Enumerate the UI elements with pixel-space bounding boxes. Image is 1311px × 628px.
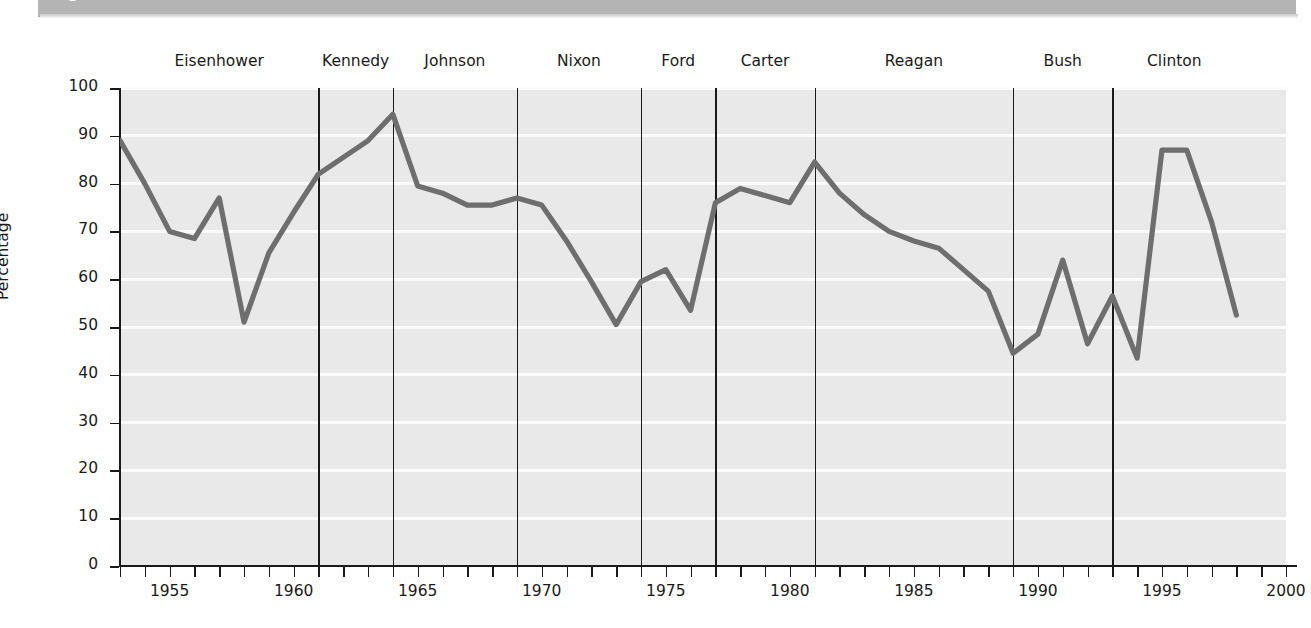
x-tick-1994 xyxy=(1137,566,1138,577)
y-tick-10 xyxy=(110,518,119,520)
x-tick-1965 xyxy=(418,566,419,577)
x-tick-label-1980: 1980 xyxy=(770,582,809,600)
president-label-eisenhower: Eisenhower xyxy=(175,52,264,70)
x-tick-1954 xyxy=(145,566,146,577)
y-tick-label-30: 30 xyxy=(58,414,98,430)
x-tick-label-2000: 2000 xyxy=(1266,582,1305,600)
y-tick-40 xyxy=(110,375,119,377)
x-tick-1958 xyxy=(244,566,245,577)
x-tick-1975 xyxy=(666,566,667,577)
president-label-kennedy: Kennedy xyxy=(322,52,389,70)
x-tick-1981 xyxy=(815,566,816,577)
x-tick-1967 xyxy=(467,566,468,577)
x-tick-1996 xyxy=(1187,566,1188,577)
x-tick-label-1970: 1970 xyxy=(522,582,561,600)
x-tick-1995 xyxy=(1162,566,1163,577)
x-tick-1971 xyxy=(567,566,568,577)
data-series-line-chart xyxy=(120,88,1286,566)
x-tick-1955 xyxy=(170,566,171,577)
y-tick-80 xyxy=(110,184,119,186)
x-tick-1974 xyxy=(641,566,642,577)
y-tick-label-90: 90 xyxy=(58,127,98,143)
x-tick-1987 xyxy=(963,566,964,577)
y-tick-label-100: 100 xyxy=(58,79,98,95)
x-tick-1980 xyxy=(790,566,791,577)
y-tick-label-50: 50 xyxy=(58,318,98,334)
x-tick-1982 xyxy=(839,566,840,577)
x-tick-label-1965: 1965 xyxy=(398,582,437,600)
x-tick-1960 xyxy=(294,566,295,577)
x-tick-1998 xyxy=(1236,566,1237,577)
x-tick-1976 xyxy=(691,566,692,577)
figure-number-label: Figure 12.1 xyxy=(52,0,151,2)
x-tick-1973 xyxy=(616,566,617,577)
x-tick-1990 xyxy=(1038,566,1039,577)
x-tick-1972 xyxy=(591,566,592,577)
figure-root: Figure 12.1 Percentage 19551960196519701… xyxy=(0,0,1311,628)
x-tick-1991 xyxy=(1063,566,1064,577)
x-tick-label-1995: 1995 xyxy=(1142,582,1181,600)
x-tick-1970 xyxy=(542,566,543,577)
x-tick-1968 xyxy=(492,566,493,577)
x-tick-2000 xyxy=(1286,566,1287,577)
y-tick-0 xyxy=(110,566,119,568)
y-tick-label-60: 60 xyxy=(58,270,98,286)
x-tick-1959 xyxy=(269,566,270,577)
x-tick-label-1960: 1960 xyxy=(274,582,313,600)
y-tick-50 xyxy=(110,327,119,329)
y-tick-label-80: 80 xyxy=(58,175,98,191)
x-tick-1992 xyxy=(1088,566,1089,577)
x-tick-1962 xyxy=(343,566,344,577)
x-tick-1977 xyxy=(715,566,716,577)
y-tick-90 xyxy=(110,136,119,138)
x-tick-1957 xyxy=(219,566,220,577)
x-tick-1988 xyxy=(988,566,989,577)
president-label-bush: Bush xyxy=(1044,52,1082,70)
y-tick-label-10: 10 xyxy=(58,509,98,525)
y-tick-label-40: 40 xyxy=(58,366,98,382)
x-tick-1964 xyxy=(393,566,394,577)
x-tick-label-1975: 1975 xyxy=(646,582,685,600)
president-label-clinton: Clinton xyxy=(1147,52,1202,70)
x-tick-1953 xyxy=(120,566,121,577)
y-tick-label-70: 70 xyxy=(58,222,98,238)
president-label-johnson: Johnson xyxy=(424,52,485,70)
x-tick-1978 xyxy=(740,566,741,577)
x-tick-1986 xyxy=(939,566,940,577)
y-tick-label-20: 20 xyxy=(58,461,98,477)
president-label-nixon: Nixon xyxy=(557,52,601,70)
president-label-carter: Carter xyxy=(741,52,790,70)
x-tick-1993 xyxy=(1112,566,1113,577)
x-tick-1999 xyxy=(1261,566,1262,577)
x-tick-1985 xyxy=(914,566,915,577)
series-polyline-percentage xyxy=(120,114,1236,358)
figure-header-shadow xyxy=(40,14,1298,19)
x-tick-1979 xyxy=(765,566,766,577)
y-axis-title: Percentage xyxy=(0,213,12,300)
x-tick-1984 xyxy=(889,566,890,577)
y-tick-60 xyxy=(110,279,119,281)
x-tick-label-1985: 1985 xyxy=(894,582,933,600)
president-label-ford: Ford xyxy=(661,52,695,70)
president-label-reagan: Reagan xyxy=(885,52,943,70)
x-tick-1961 xyxy=(318,566,319,577)
y-tick-70 xyxy=(110,231,119,233)
x-tick-1969 xyxy=(517,566,518,577)
y-tick-label-0: 0 xyxy=(58,557,98,573)
x-tick-1989 xyxy=(1013,566,1014,577)
y-tick-100 xyxy=(110,88,119,90)
x-tick-1956 xyxy=(194,566,195,577)
x-tick-1963 xyxy=(368,566,369,577)
x-tick-1966 xyxy=(443,566,444,577)
x-tick-label-1955: 1955 xyxy=(150,582,189,600)
y-tick-20 xyxy=(110,470,119,472)
x-tick-label-1990: 1990 xyxy=(1018,582,1057,600)
y-tick-30 xyxy=(110,423,119,425)
x-tick-1983 xyxy=(864,566,865,577)
x-tick-1997 xyxy=(1212,566,1213,577)
